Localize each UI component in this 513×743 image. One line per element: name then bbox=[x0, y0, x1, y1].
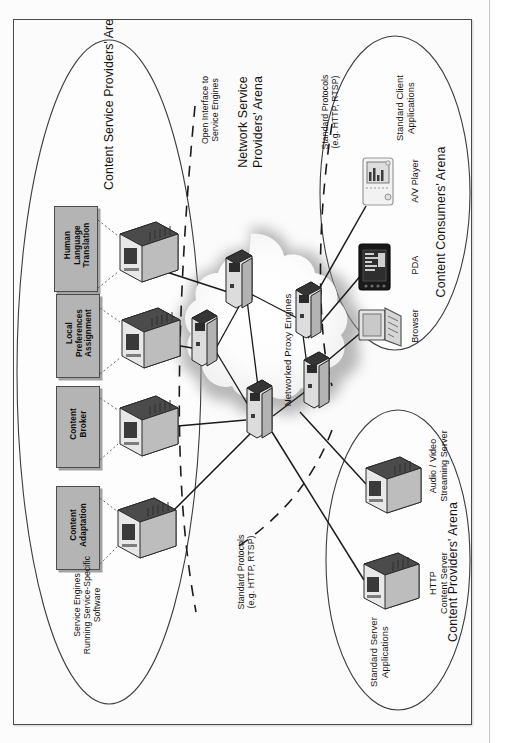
service-box-content-broker: Content Broker bbox=[56, 386, 100, 468]
server-icon-content-adaptation bbox=[118, 498, 176, 558]
page-spine-edge bbox=[489, 0, 513, 743]
proxy-engine-4 bbox=[304, 352, 329, 408]
service-box-local-preferences-assignment: Local Preferences Assignment bbox=[56, 294, 100, 378]
server-icon-av-streaming bbox=[366, 457, 421, 513]
arena-caption-standard-client-applications: Standard Client Applications bbox=[394, 48, 416, 168]
proxy-engine-1 bbox=[226, 250, 252, 308]
desktop-pc-icon bbox=[359, 308, 401, 346]
proxy-engine-3 bbox=[192, 310, 217, 366]
service-box-label: Local Preferences Assignment bbox=[65, 295, 94, 371]
arena-title-content-consumers: Content Consumers' Arena bbox=[434, 124, 449, 320]
service-box-label: Content Broker bbox=[69, 387, 88, 461]
server-icon-local-preferences-assignment bbox=[122, 308, 180, 368]
device-label-browser: Browser bbox=[410, 302, 421, 350]
pda-icon bbox=[359, 244, 390, 290]
service-box-label: Human Language Translation bbox=[63, 205, 92, 285]
service-box-human-language-translation: Human Language Translation bbox=[54, 206, 98, 292]
interface-label-protocols-providers: Standard Protocols (e.g. HTTP, RTSP) bbox=[236, 504, 256, 640]
scanned-figure-page: Human Language Translation Local Prefere… bbox=[0, 0, 513, 743]
interface-label-protocols-consumers: Standard Protocols (e.g. HTTP, RTSP) bbox=[320, 44, 340, 180]
figure-frame: Human Language Translation Local Prefere… bbox=[13, 19, 472, 725]
interface-label-open-interface: Open Interface to Service Engines bbox=[200, 45, 220, 175]
server-icon-human-language-translation bbox=[120, 222, 178, 282]
arena-caption-service-engines-software: Service Engines Running Service-Specific… bbox=[72, 530, 102, 680]
arena-caption-networked-proxy-engines: Networked Proxy Engines bbox=[282, 270, 293, 430]
device-label-pda: PDA bbox=[410, 249, 421, 281]
arena-title-network-service-providers: Network Service Providers' Arena bbox=[236, 52, 265, 192]
proxy-engine-2 bbox=[296, 282, 321, 338]
proxy-engine-5 bbox=[247, 380, 272, 438]
arena-caption-standard-server-applications: Standard Server Applications bbox=[368, 592, 390, 712]
arena-title-content-service-providers: Content Service Providers' Arena bbox=[102, 30, 117, 190]
arena-title-content-providers: Content Providers' Arena bbox=[446, 479, 461, 665]
server-icon-content-broker bbox=[120, 396, 178, 456]
tablet-player-icon bbox=[363, 158, 393, 205]
device-label-av-player: A/V Player bbox=[410, 152, 421, 210]
